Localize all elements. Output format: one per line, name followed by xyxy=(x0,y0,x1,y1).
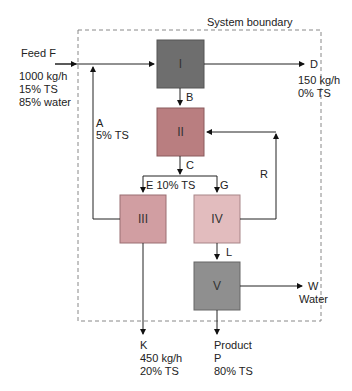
stream-P-ts: 80% TS xyxy=(214,365,253,378)
stream-W-name: W xyxy=(308,280,318,293)
stream-D-flow: 150 kg/h xyxy=(298,74,340,87)
stream-B-name: B xyxy=(186,91,193,104)
stream-W-desc: Water xyxy=(299,293,328,306)
feed-name: Feed F xyxy=(21,47,56,60)
feed-water: 85% water xyxy=(19,96,71,109)
stream-K-flow: 450 kg/h xyxy=(140,352,182,365)
stream-P-name: P xyxy=(214,352,221,365)
feed-ts: 15% TS xyxy=(19,83,58,96)
unit-IV-label: IV xyxy=(194,212,240,226)
stream-K-name: K xyxy=(140,339,147,352)
stream-P-product: Product xyxy=(214,339,252,352)
stream-L-name: L xyxy=(226,246,232,259)
unit-V-label: V xyxy=(194,279,240,293)
stream-C-name: C xyxy=(186,159,194,172)
stream-D-name: D xyxy=(310,58,318,71)
stream-K-ts: 20% TS xyxy=(140,365,179,378)
stream-R-name: R xyxy=(260,168,268,181)
feed-flow: 1000 kg/h xyxy=(19,70,67,83)
stream-G-name: G xyxy=(220,179,229,192)
unit-III-label: III xyxy=(120,212,166,226)
stream-E-label: E 10% TS xyxy=(146,179,195,192)
stream-A-ts: 5% TS xyxy=(96,129,129,142)
unit-I-label: I xyxy=(157,57,204,71)
boundary-label: System boundary xyxy=(207,16,293,29)
stream-D-ts: 0% TS xyxy=(298,87,331,100)
unit-II-label: II xyxy=(157,125,204,139)
